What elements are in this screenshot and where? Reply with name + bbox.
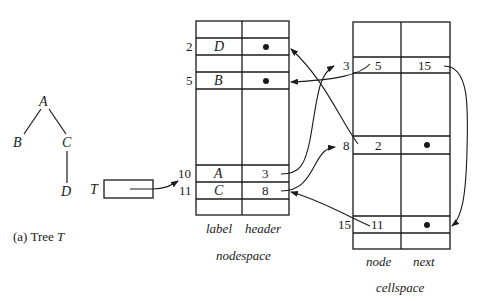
cellspace-title: cellspace <box>376 280 425 295</box>
label-cell: C <box>214 183 224 198</box>
node-cell: 5 <box>375 58 382 73</box>
nodespace-row: 11 C 8 <box>179 183 269 198</box>
pointer-label: T <box>90 182 99 197</box>
header-cell: 3 <box>262 166 269 181</box>
label-cell: A <box>213 166 223 181</box>
next-cell: 15 <box>418 58 431 73</box>
pointer-arrow <box>130 181 178 189</box>
tree-node-b: B <box>13 135 22 150</box>
tree-edge-a-b <box>24 109 41 134</box>
row-index: 8 <box>343 138 350 153</box>
arrow-cell-3-next-to-cell-15 <box>444 66 467 226</box>
tree-edge-a-c <box>49 109 66 134</box>
node-cell: 2 <box>375 138 382 153</box>
null-pointer-icon <box>263 78 269 84</box>
cellspace-row: 3 5 15 <box>343 58 431 73</box>
node-cell: 11 <box>371 217 384 232</box>
row-index: 10 <box>178 166 191 181</box>
nodespace-row: 5 B <box>186 73 269 88</box>
null-pointer-icon <box>424 142 430 148</box>
null-pointer-icon <box>263 44 269 50</box>
tree-diagram: A B C D (a) Tree T <box>13 94 72 244</box>
tree-caption: (a) Tree T <box>13 229 65 244</box>
header-cell: 8 <box>262 183 269 198</box>
cellspace-row: 8 2 <box>343 138 430 153</box>
nodespace-title: nodespace <box>216 248 271 263</box>
tree-node-a: A <box>38 94 48 109</box>
column-header-next: next <box>413 254 435 269</box>
cellspace-row: 15 11 <box>338 217 430 232</box>
row-index: 11 <box>179 183 192 198</box>
row-index: 2 <box>186 39 193 54</box>
nodespace-row: 10 A 3 <box>178 166 269 181</box>
arrow-cell-15-to-c <box>291 192 370 226</box>
nodespace-table: 2 D 5 B 10 A 3 11 C 8 label header nodes… <box>178 21 289 263</box>
cellspace-table: 3 5 15 8 2 15 11 node next cellspace <box>338 22 450 295</box>
tree-representation-diagram: A B C D (a) Tree T T 2 D 5 B <box>0 0 480 301</box>
row-index: 3 <box>343 58 350 73</box>
row-index: 5 <box>186 73 193 88</box>
column-header-header: header <box>245 221 282 236</box>
column-header-node: node <box>366 254 392 269</box>
null-pointer-icon <box>424 222 430 228</box>
root-pointer: T <box>90 180 178 198</box>
row-index: 15 <box>338 217 351 232</box>
column-header-label: label <box>206 221 232 236</box>
label-cell: B <box>214 73 223 88</box>
nodespace-row: 2 D <box>186 39 269 54</box>
tree-node-d: D <box>60 184 71 199</box>
tree-node-c: C <box>62 135 72 150</box>
label-cell: D <box>213 39 224 54</box>
